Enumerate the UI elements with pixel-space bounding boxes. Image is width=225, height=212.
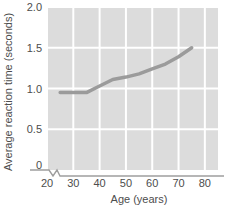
y-axis-tick-label: 1.5 [27, 42, 42, 54]
line-chart: 0.51.01.52.0 20304050607080 0 Age (years… [0, 0, 225, 212]
x-axis-tick-label: 70 [172, 177, 184, 189]
x-axis-line [30, 170, 224, 176]
x-axis [30, 170, 224, 176]
y-axis-tick-label: 0.5 [27, 123, 42, 135]
x-axis-tick-label: 20 [41, 177, 53, 189]
x-axis-tick-label: 50 [120, 177, 132, 189]
x-axis-tick-label: 80 [199, 177, 211, 189]
y-axis-tick-label: 2.0 [27, 1, 42, 13]
y-axis-title: Average reaction time (seconds) [2, 13, 14, 171]
x-axis-title: Age (years) [111, 193, 168, 205]
x-axis-tick-label: 40 [93, 177, 105, 189]
x-axis-tick-labels: 20304050607080 [41, 177, 211, 189]
x-axis-tick-label: 30 [67, 177, 79, 189]
chart-figure: 0.51.01.52.0 20304050607080 0 Age (years… [0, 0, 225, 212]
y-axis-tick-labels: 0.51.01.52.0 [27, 1, 42, 135]
x-axis-tick-label: 60 [146, 177, 158, 189]
y-axis-zero-label: 0 [36, 159, 42, 171]
y-axis-tick-label: 1.0 [27, 83, 42, 95]
